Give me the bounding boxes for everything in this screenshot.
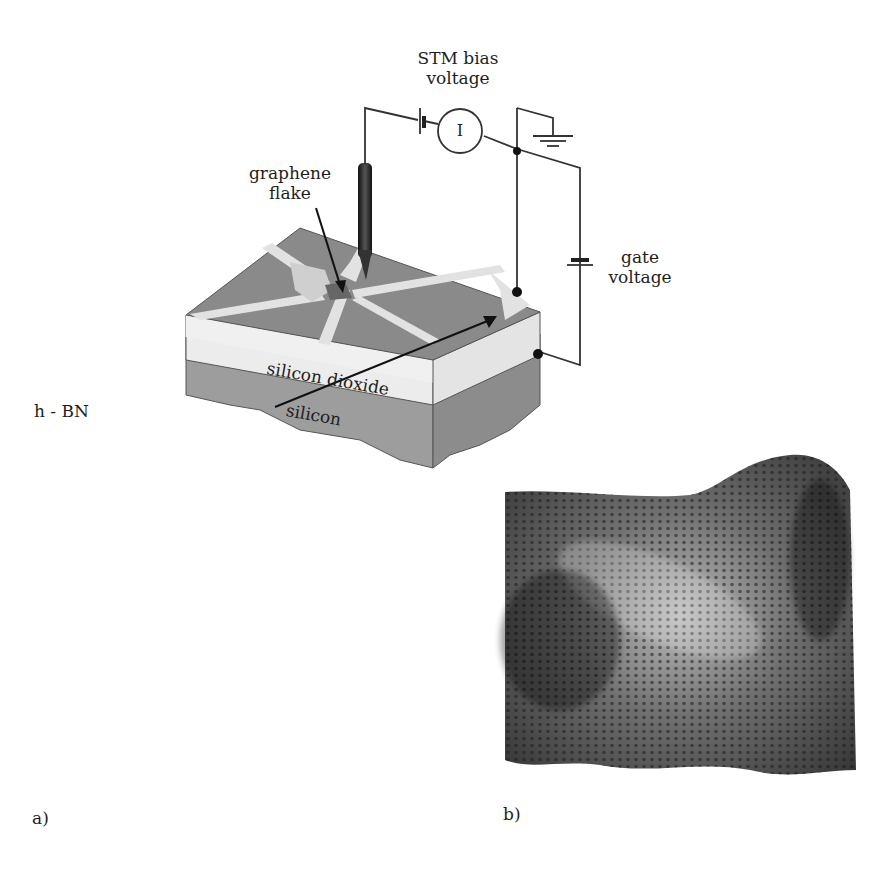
stm-bias-label: STM bias voltage	[398, 48, 518, 88]
graphene-line1: graphene	[240, 163, 340, 183]
stm-tip	[358, 163, 372, 258]
gate-line2: voltage	[600, 267, 680, 287]
panel-a-label: a)	[32, 808, 62, 828]
graphene-flake-label: graphene flake	[240, 163, 340, 203]
current-meter-label: I	[450, 121, 470, 141]
graphene-line2: flake	[240, 183, 340, 203]
gate-voltage-label: gate voltage	[600, 247, 680, 287]
stm-bias-line2: voltage	[398, 68, 518, 88]
stm-bias-line1: STM bias	[398, 48, 518, 68]
stm-topography-image	[500, 455, 856, 775]
hbn-label: h - BN	[34, 401, 104, 421]
panel-b-label: b)	[503, 804, 533, 824]
gate-line1: gate	[600, 247, 680, 267]
stm-schematic	[0, 0, 889, 878]
ground-icon	[533, 136, 573, 146]
